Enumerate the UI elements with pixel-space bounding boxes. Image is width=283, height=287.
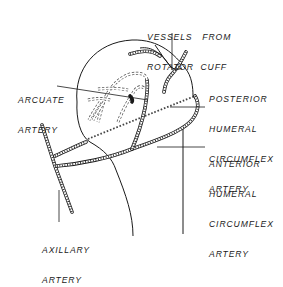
label-axillary-artery: AXILLARY ARTERY (42, 225, 90, 287)
label-line: HUMERAL (209, 189, 274, 199)
label-line: VESSELS FROM (147, 32, 231, 42)
label-arcuate-artery: ARCUATE ARTERY (18, 75, 65, 145)
label-line: HUMERAL (209, 124, 274, 134)
label-anterior-humeral-circumflex-artery: ANTERIOR HUMERAL CIRCUMFLEX ARTERY (209, 139, 274, 269)
label-line: ARCUATE (18, 95, 65, 105)
label-vessels-from-rotator-cuff: VESSELS FROM ROTATOR CUFF (147, 12, 231, 82)
label-line: ARTERY (42, 275, 90, 285)
label-line: POSTERIOR (209, 94, 274, 104)
label-line: ANTERIOR (209, 159, 274, 169)
label-line: ARTERY (209, 249, 274, 259)
label-line: CIRCUMFLEX (209, 219, 274, 229)
label-line: ROTATOR CUFF (147, 62, 231, 72)
anterior-humeral-circumflex-vessel (57, 96, 198, 166)
arcuate-artery-vessel (88, 73, 147, 149)
label-line: ARTERY (18, 125, 65, 135)
label-line: AXILLARY (42, 245, 90, 255)
